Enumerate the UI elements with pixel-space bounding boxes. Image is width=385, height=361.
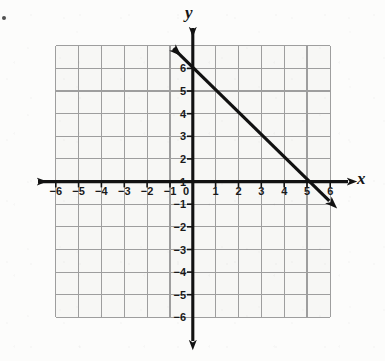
x-tick-label-6: 6	[327, 186, 333, 197]
x-tick-label-neg3: −3	[118, 186, 131, 197]
y-tick-label-3: 3	[180, 131, 186, 142]
scan-speck-artifact	[2, 16, 6, 20]
x-tick-label-neg4: −4	[95, 186, 108, 197]
y-axis-label: y	[185, 4, 193, 21]
x-axis-label: x	[357, 170, 366, 187]
x-tick-label-5: 5	[304, 186, 310, 197]
y-tick-label-neg6: −6	[173, 312, 186, 323]
y-tick-label-5: 5	[180, 86, 186, 97]
x-tick-label-neg6: −6	[50, 186, 63, 197]
x-tick-label-4: 4	[281, 186, 287, 197]
y-tick-label-6: 6	[180, 63, 186, 74]
x-tick-label-neg5: −5	[72, 186, 85, 197]
y-tick-label-neg5: −5	[173, 289, 186, 300]
y-tick-label-4: 4	[180, 108, 186, 119]
x-tick-label-3: 3	[258, 186, 264, 197]
y-tick-label-1: 1	[180, 176, 186, 187]
y-tick-label-neg3: −3	[173, 244, 186, 255]
y-tick-label-2: 2	[180, 153, 186, 164]
y-tick-label-neg4: −4	[173, 267, 186, 278]
y-tick-label-neg1: −1	[173, 199, 186, 210]
x-tick-label-neg2: −2	[141, 186, 154, 197]
coordinate-plane-figure: x y 0 −6 −5 −4 −3 −2 −1 1 2 3 4 5 6 6 5 …	[0, 0, 385, 361]
y-tick-label-neg2: −2	[173, 221, 186, 232]
x-tick-label-1: 1	[213, 186, 219, 197]
x-tick-label-neg1: −1	[164, 186, 177, 197]
graph-canvas	[0, 0, 385, 361]
x-tick-label-2: 2	[235, 186, 241, 197]
origin-tick-label: 0	[183, 186, 189, 197]
